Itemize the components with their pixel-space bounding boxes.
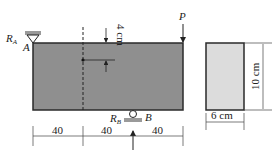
section-width-label: 6 cm [211, 109, 233, 121]
span-3-label: 40 [152, 124, 164, 136]
point-b-label: B [145, 111, 152, 123]
beam-diagram: 4 cm RA A P RB B 40 40 40 10 cm 6 cm [0, 0, 278, 155]
load-p-label: P [178, 10, 186, 22]
support-b [124, 111, 142, 123]
reaction-a-label: RA [5, 32, 18, 46]
cross-section [206, 43, 244, 110]
section-height-label: 10 cm [249, 62, 261, 90]
beam-body [33, 43, 183, 110]
span-2-label: 40 [101, 124, 113, 136]
offset-dim-label: 4 cm [115, 24, 127, 46]
point-a-label: A [22, 41, 30, 53]
span-1-label: 40 [52, 124, 64, 136]
